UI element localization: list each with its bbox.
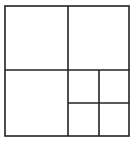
outer-square: [5, 6, 129, 136]
subdivided-square-diagram: [0, 0, 135, 142]
division-lines: [5, 6, 129, 136]
